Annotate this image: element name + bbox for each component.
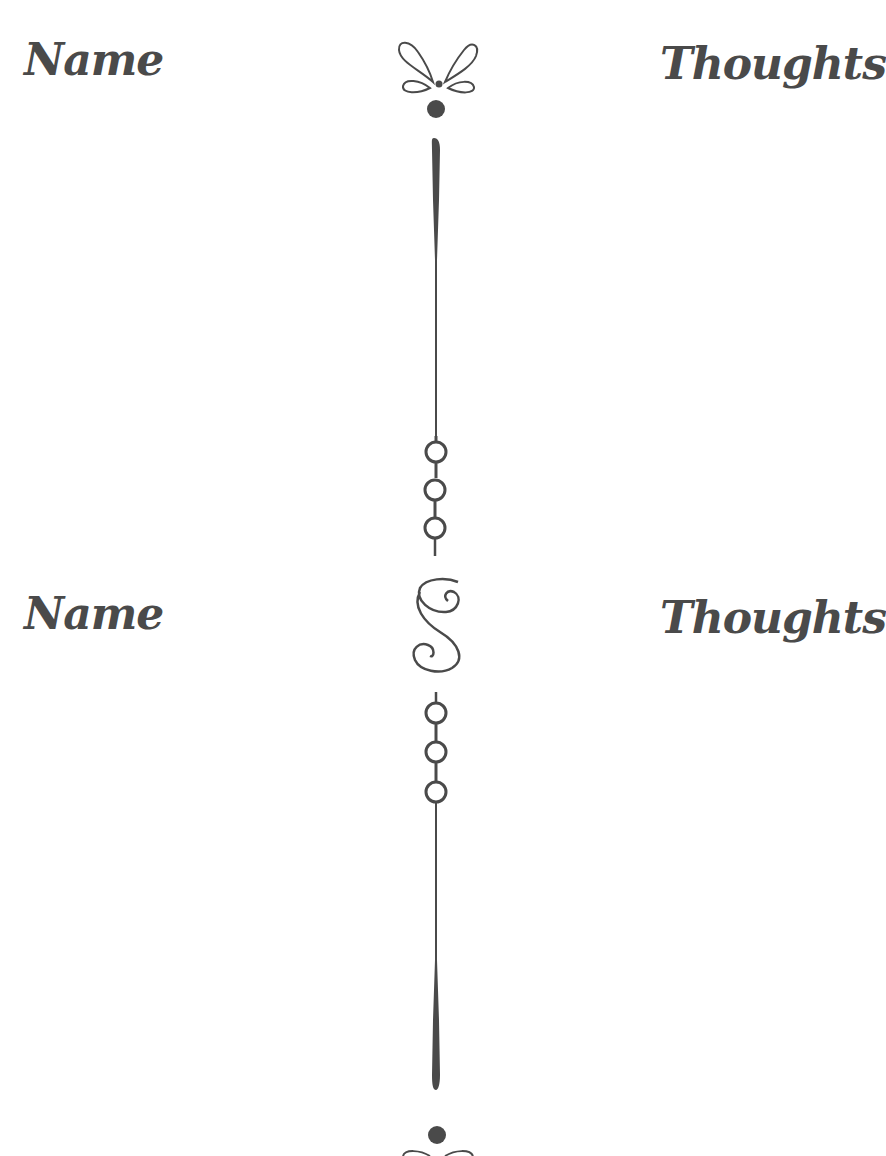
tapered-line-icon	[432, 138, 440, 440]
circle-chain-icon	[425, 436, 446, 556]
butterfly-loops-icon	[399, 43, 477, 93]
tapered-line-icon	[432, 802, 440, 1090]
dot-icon	[428, 1126, 446, 1144]
circle-chain-icon	[426, 692, 446, 802]
dot-icon	[427, 100, 445, 118]
s-swirl-icon	[414, 579, 460, 671]
butterfly-loops-icon	[403, 1151, 473, 1156]
